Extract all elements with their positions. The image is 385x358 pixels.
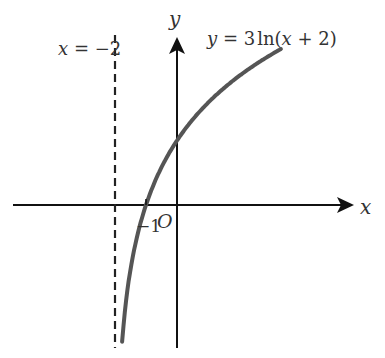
y-axis-label: y (168, 7, 181, 31)
function-curve (122, 49, 281, 342)
asymptote-label: x = −2 (58, 38, 121, 59)
graph: y x O −1 x = −2 y = 3ln(x + 2) (0, 0, 385, 358)
x-axis-label: x (360, 195, 371, 219)
tick-label-neg1: −1 (136, 216, 161, 236)
function-label: y = 3ln(x + 2) (206, 28, 337, 49)
